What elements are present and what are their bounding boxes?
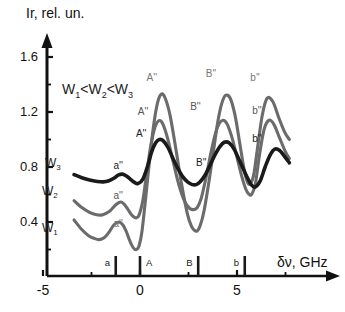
x-tick-label-0: 0 — [128, 283, 152, 297]
y-tick-label-1.6: 1.6 — [8, 50, 38, 63]
stick-label-b: b — [234, 258, 239, 268]
inequality-annotation: W1<W2<W3 — [62, 82, 133, 100]
y-axis-arrowhead — [42, 33, 53, 48]
peak-label-App-W1: A'' — [147, 73, 158, 83]
peak-label-bpp-W2: b'' — [252, 106, 261, 116]
peak-label-Bpp-W1: B'' — [206, 69, 217, 79]
w3-text: W — [115, 81, 128, 97]
x-tick-label--5: -5 — [31, 283, 55, 297]
y-tick-label-0.4: 0.4 — [8, 215, 38, 228]
x-tick-label-5: 5 — [225, 283, 249, 297]
stick-label-a: a — [105, 258, 110, 268]
w2-text: W — [88, 81, 101, 97]
lt-2: < — [107, 81, 115, 97]
x-axis-label: δν, GHz — [277, 255, 328, 269]
peak-label-Bpp-W3: B'' — [196, 158, 207, 168]
y-axis-label: Ir, rel. un. — [26, 6, 84, 20]
w3-sub: 3 — [128, 90, 133, 100]
curve-label-W2: W2 — [42, 185, 58, 200]
y-tick-label-0.8: 0.8 — [8, 160, 38, 173]
y-tick-label-1.2: 1.2 — [8, 105, 38, 118]
figure-root: Ir, rel. un. δν, GHz W1<W2<W3 0.40.81.21… — [0, 0, 345, 312]
peak-label-Bpp-W2: B'' — [190, 102, 201, 112]
peak-label-app-W3: a'' — [114, 161, 123, 171]
x-axis-arrowhead — [326, 271, 340, 282]
stick-label-B: B — [186, 258, 192, 268]
peak-label-app-W1: a'' — [114, 219, 123, 229]
stick-label-A: A — [146, 258, 152, 268]
peak-label-bpp-W1: b'' — [250, 73, 259, 83]
curve-label-W1: W1 — [42, 222, 58, 237]
curve-label-W3: W3 — [45, 157, 61, 172]
peak-label-App-W2: A'' — [138, 107, 149, 117]
peak-label-bpp-W3: b'' — [252, 134, 261, 144]
peak-label-app-W2: a'' — [114, 191, 123, 201]
w1-text: W — [62, 81, 75, 97]
peak-label-App-W3: A'' — [136, 129, 147, 139]
